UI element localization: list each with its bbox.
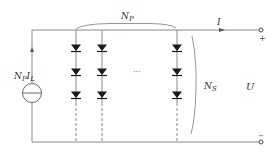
parallel-count-label: NP: [120, 11, 134, 23]
series-count-label: NS: [203, 81, 217, 93]
circuit-diagram: NPIL NP NS I U + − ···: [0, 0, 267, 158]
diode-icon: [71, 92, 81, 99]
terminal-plus: [259, 28, 263, 32]
diode-icon: [97, 92, 107, 99]
diode-icon: [71, 45, 81, 52]
ellipsis: ···: [133, 68, 141, 77]
diode-icon: [172, 45, 182, 52]
source-arrow-icon: [30, 47, 34, 52]
minus-sign: −: [258, 132, 264, 140]
diode-icon: [97, 45, 107, 52]
output-arrow-icon: [219, 28, 225, 32]
current-source-icon: [22, 83, 42, 103]
terminal-minus: [259, 140, 263, 144]
diode-icon: [97, 69, 107, 76]
dashed-continuation: [76, 103, 177, 142]
plus-sign: +: [259, 34, 266, 43]
diode-icon: [172, 92, 182, 99]
output-voltage-label: U: [246, 81, 255, 92]
diode-icon: [71, 69, 81, 76]
series-brace: [191, 36, 196, 134]
parallel-brace: [76, 24, 176, 30]
diode-icon: [172, 69, 182, 76]
output-current-label: I: [216, 17, 221, 27]
